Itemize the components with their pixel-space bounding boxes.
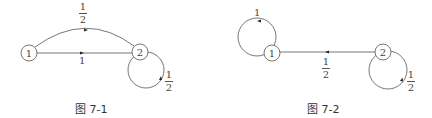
- fraction-denominator: 2: [166, 83, 172, 93]
- arrow-icon: [257, 20, 261, 23]
- node-1-label: 1: [26, 48, 32, 59]
- node-2-label: 2: [380, 47, 386, 58]
- node-2-label: 2: [137, 47, 143, 58]
- arrow-icon: [325, 51, 329, 54]
- fraction-numerator: 1: [80, 2, 86, 12]
- figure-caption: 图 7-2: [307, 100, 339, 116]
- edge-weight-selfloop: 1 2: [165, 70, 173, 93]
- arrow-icon: [84, 29, 88, 32]
- figure-caption: 图 7-1: [75, 100, 107, 116]
- edge-weight-selfloop-2: 1 2: [407, 70, 415, 93]
- arrow-icon: [159, 76, 162, 80]
- edge-weight-arc: 1 2: [79, 2, 87, 25]
- edge-weight-line: 1: [79, 55, 85, 66]
- node-1-label: 1: [269, 48, 275, 59]
- fraction-numerator: 1: [166, 70, 172, 80]
- edge-weight-line: 1 2: [322, 57, 330, 80]
- edge-weight-selfloop-1: 1: [254, 7, 260, 18]
- fraction-numerator: 1: [408, 70, 414, 80]
- diagram-canvas: 1 2 1 2: [0, 0, 432, 118]
- fraction-denominator: 2: [408, 83, 414, 93]
- fraction-numerator: 1: [323, 57, 329, 67]
- arrow-icon: [400, 78, 403, 82]
- fraction-denominator: 2: [323, 70, 329, 80]
- figure-7-1: [21, 28, 164, 88]
- fraction-denominator: 2: [80, 15, 86, 25]
